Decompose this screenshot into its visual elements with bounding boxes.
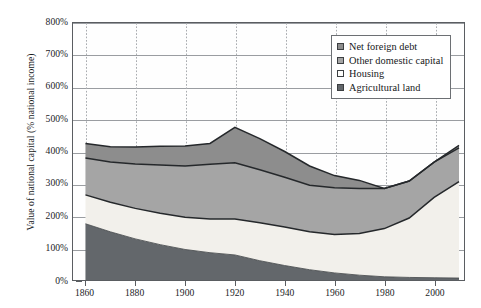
legend-item-label: Agricultural land [349, 82, 420, 93]
chart-figure: Value of national capital (% national in… [0, 0, 481, 308]
legend-item: Housing [337, 67, 443, 81]
legend-item: Net foreign debt [337, 40, 443, 54]
legend-swatch-icon [337, 43, 344, 50]
legend-swatch-icon [337, 57, 344, 64]
y-axis-tick-label: 200% [14, 211, 68, 221]
chart-legend: Net foreign debtOther domestic capitalHo… [331, 35, 451, 99]
x-axis-tick-mark [285, 281, 286, 286]
legend-item-label: Net foreign debt [349, 41, 417, 52]
legend-item-label: Housing [349, 68, 384, 79]
legend-swatch-icon [337, 70, 344, 77]
y-axis-tick-label: 600% [14, 81, 68, 91]
y-axis-tick-label: 100% [14, 243, 68, 253]
x-axis-tick-mark [135, 281, 136, 286]
x-axis-tick-mark [335, 281, 336, 286]
x-axis-tick-mark [235, 281, 236, 286]
legend-item-label: Other domestic capital [349, 55, 443, 66]
y-axis-tick-label: 800% [14, 17, 68, 27]
x-axis-tick-mark [85, 281, 86, 286]
y-axis-tick-labels: 0%100%200%300%400%500%600%700%800% [10, 0, 68, 308]
y-axis-tick-mark [76, 281, 82, 282]
y-axis-tick-label: 300% [14, 178, 68, 188]
legend-item: Other domestic capital [337, 54, 443, 68]
y-axis-tick-label: 400% [14, 146, 68, 156]
x-axis-tick-mark [435, 281, 436, 286]
y-axis-tick-label: 700% [14, 49, 68, 59]
x-axis-tick-mark [385, 281, 386, 286]
legend-item: Agricultural land [337, 81, 443, 95]
y-axis-tick-label: 500% [14, 114, 68, 124]
x-axis-tick-mark [185, 281, 186, 286]
x-axis-tick-label: 2000 [405, 287, 465, 298]
y-axis-tick-label: 0% [14, 276, 68, 286]
legend-swatch-icon [337, 84, 344, 91]
